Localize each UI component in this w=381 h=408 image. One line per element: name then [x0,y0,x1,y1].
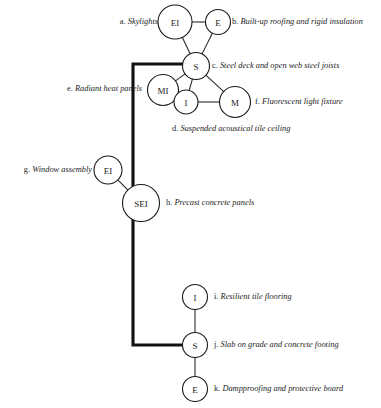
callout-g: g. Window assembly [12,165,92,174]
callout-letter-f: f. [255,97,260,106]
callout-letter-g: g. [24,165,30,174]
callout-letter-d: d. [172,124,178,133]
edge-n_e_top-to-n_s_top [202,33,213,55]
node-n_sei[interactable]: SEI [123,185,160,222]
callout-letter-a: a. [120,17,126,26]
callout-text-i: Resilient tile flooring [221,292,292,301]
node-n_ei_top[interactable]: EI [158,5,192,39]
edge-n_ei_mid-to-n_sei [118,180,129,191]
callout-h: h. Precast concrete panels [166,198,276,207]
callout-i: i. Resilient tile flooring [214,292,314,301]
node-label-n_i_bot: I [194,293,197,303]
node-label-n_ei_mid: EI [104,166,113,176]
callout-f: f. Fluorescent light fixture [255,97,365,106]
callout-text-a: Skylights [128,17,158,26]
callout-letter-h: h. [166,198,172,207]
callout-k: k. Dampproofing and protective board [214,384,374,393]
callout-letter-k: k. [214,384,220,393]
edge-n_s_top-to-n_i_mid [189,79,192,91]
node-n_e_top[interactable]: E [206,10,231,35]
node-label-n_s_top: S [193,62,198,72]
node-label-n_e_bot: E [192,385,198,395]
callout-e: e. Radiant heat panels [48,84,142,93]
node-n_m[interactable]: M [220,87,251,118]
edge-n_s_top-to-n_mi [175,74,185,82]
callout-c: c. Steel deck and open web steel joists [212,61,362,70]
node-label-n_e_top: E [215,18,221,28]
callout-text-e: Radiant heat panels [75,84,142,93]
node-label-n_ei_top: EI [171,18,180,28]
callout-j: j. Slab on grade and concrete footing [214,340,364,349]
callout-d: d. Suspended acoustical tile ceiling [172,124,332,133]
edge-n_ei_top-to-n_s_top [182,37,190,54]
callout-text-d: Suspended acoustical tile ceiling [180,124,290,133]
node-n_i_mid[interactable]: I [174,90,198,114]
callout-a: a. Skylights [110,17,158,26]
node-label-n_m: M [231,98,239,108]
edge-n_s_top-to-n_m [206,75,224,92]
callout-text-k: Dampproofing and protective board [222,384,343,393]
node-n_e_bot[interactable]: E [183,377,208,402]
node-n_s_top[interactable]: S [183,53,210,80]
node-label-n_mi: MI [158,86,169,96]
callout-text-c: Steel deck and open web steel joists [220,61,340,70]
callout-letter-i: i. [214,292,218,301]
node-n_ei_mid[interactable]: EI [94,156,122,184]
node-label-n_sei: SEI [134,199,148,209]
callout-b: b. Built-up roofing and rigid insulation [232,17,381,26]
node-label-n_s_bot: S [192,341,197,351]
node-n_s_bot[interactable]: S [183,333,208,358]
callout-text-f: Fluorescent light fixture [262,97,343,106]
callout-letter-j: j. [214,340,218,349]
callout-text-j: Slab on grade and concrete footing [221,340,339,349]
node-n_i_bot[interactable]: I [183,285,208,310]
callout-text-g: Window assembly [32,165,92,174]
callout-text-h: Precast concrete panels [174,198,254,207]
callout-text-b: Built-up roofing and rigid insulation [240,17,363,26]
callout-letter-e: e. [67,84,73,93]
callout-letter-b: b. [232,17,238,26]
node-label-n_i_mid: I [185,98,188,108]
callout-letter-c: c. [212,61,218,70]
diagram-page: EIESMIIMEISEIISE a. Skylightsb. Built-up… [0,0,381,408]
